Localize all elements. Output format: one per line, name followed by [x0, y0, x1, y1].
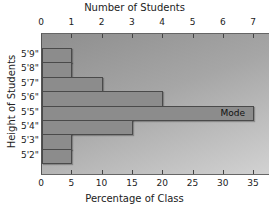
- top-tick-label: 3: [129, 17, 135, 27]
- bar-58: [42, 62, 72, 77]
- top-tick-mark: [162, 34, 163, 38]
- top-tick-mark: [253, 34, 254, 38]
- y-category-label: 5'3": [21, 135, 39, 145]
- bar-56: [42, 91, 163, 106]
- top-tick-mark: [193, 34, 194, 38]
- y-category-label: 5'9": [21, 49, 39, 59]
- plot-area: Mode: [41, 33, 269, 175]
- bottom-tick-label: 30: [217, 178, 228, 188]
- top-tick-label: 6: [220, 17, 226, 27]
- bottom-tick-mark: [193, 170, 194, 174]
- top-tick-label: 5: [190, 17, 196, 27]
- bottom-tick-mark: [132, 170, 133, 174]
- bottom-axis-title: Percentage of Class: [0, 193, 269, 204]
- bar-54: [42, 120, 133, 135]
- bar-52: [42, 149, 72, 164]
- bottom-tick-label: 20: [156, 178, 167, 188]
- top-tick-label: 7: [250, 17, 256, 27]
- y-category-label: 5'7": [21, 78, 39, 88]
- bar-59: [42, 48, 72, 63]
- top-tick-mark: [102, 34, 103, 38]
- top-tick-mark: [71, 34, 72, 38]
- bottom-tick-mark: [253, 170, 254, 174]
- bottom-tick-mark: [102, 170, 103, 174]
- y-category-label: 5'4": [21, 121, 39, 131]
- bottom-tick-mark: [162, 170, 163, 174]
- bottom-tick-mark: [223, 170, 224, 174]
- top-tick-label: 2: [99, 17, 105, 27]
- mode-annotation: Mode: [221, 108, 246, 118]
- bottom-tick-label: 25: [187, 178, 198, 188]
- bottom-tick-mark: [71, 170, 72, 174]
- top-tick-label: 0: [38, 17, 44, 27]
- y-category-label: 5'8": [21, 63, 39, 73]
- bottom-tick-label: 15: [126, 178, 137, 188]
- y-axis-title: Height of Students: [6, 47, 17, 157]
- top-tick-mark: [223, 34, 224, 38]
- bottom-tick-label: 5: [68, 178, 74, 188]
- top-axis-title: Number of Students: [0, 2, 269, 13]
- bar-55: Mode: [42, 106, 254, 121]
- top-tick-label: 4: [159, 17, 165, 27]
- y-category-label: 5'5": [21, 107, 39, 117]
- y-category-label: 5'2": [21, 150, 39, 160]
- bar-57: [42, 77, 103, 92]
- y-category-label: 5'6": [21, 92, 39, 102]
- top-tick-mark: [132, 34, 133, 38]
- bottom-tick-label: 0: [38, 178, 44, 188]
- bar-53: [42, 134, 72, 149]
- bottom-tick-label: 35: [247, 178, 258, 188]
- top-tick-label: 1: [68, 17, 74, 27]
- bottom-tick-label: 10: [96, 178, 107, 188]
